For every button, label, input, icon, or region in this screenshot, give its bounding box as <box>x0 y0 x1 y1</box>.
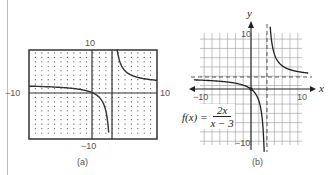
panel-b-caption: (b) <box>252 157 263 167</box>
function-label: f(x) = 2x x − 3 <box>181 104 235 129</box>
y-tick-neg-10: −10 <box>235 138 250 148</box>
y-tick-pos-10: 10 <box>241 29 251 39</box>
function-lhs: f(x) = <box>182 111 207 123</box>
x-tick-neg-10: −10 <box>193 92 208 102</box>
function-denominator: x − 3 <box>210 117 233 129</box>
function-fraction: 2x x − 3 <box>210 104 233 129</box>
x-tick-pos-10: 10 <box>297 92 307 102</box>
y-axis-label: y <box>247 7 252 19</box>
function-numerator: 2x <box>213 104 231 117</box>
graph-grid <box>0 0 331 175</box>
x-axis-label: x <box>319 82 324 94</box>
